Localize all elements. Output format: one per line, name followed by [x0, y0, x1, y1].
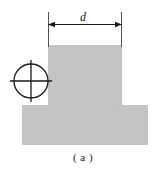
figure-caption: ( a )	[73, 152, 93, 163]
dimension-label-d: d	[80, 11, 86, 23]
arrowhead-left	[48, 22, 55, 27]
arrowhead-right	[115, 22, 122, 27]
figure-container: d ( a )	[0, 0, 166, 169]
centroid-symbol-group	[10, 60, 52, 102]
figure-drawing	[0, 0, 166, 169]
